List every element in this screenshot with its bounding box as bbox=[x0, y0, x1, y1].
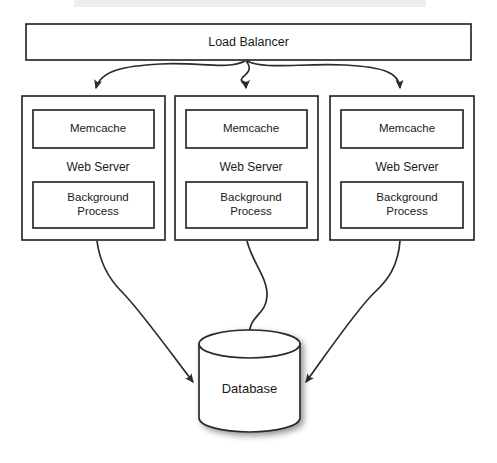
background-process-box bbox=[186, 182, 307, 228]
architecture-diagram: Load Balancer Memcache Web Server Backgr… bbox=[0, 0, 497, 463]
connector-server-3-to-database bbox=[306, 241, 400, 382]
connector-server-2-to-database bbox=[247, 241, 267, 337]
memcache-box bbox=[186, 110, 307, 148]
connector-lb-to-server-2 bbox=[241, 61, 249, 88]
connector-server-1-to-database bbox=[97, 241, 193, 382]
database-top-ellipse bbox=[199, 330, 300, 358]
server-box-3 bbox=[330, 96, 474, 240]
memcache-box bbox=[341, 110, 463, 148]
database-cylinder bbox=[199, 330, 300, 432]
diagram-vector-layer bbox=[0, 0, 497, 463]
server-box-1 bbox=[22, 96, 165, 240]
connector-lb-to-server-3 bbox=[247, 61, 400, 88]
server-box-2 bbox=[175, 96, 318, 240]
background-process-box bbox=[33, 182, 154, 228]
memcache-box bbox=[33, 110, 154, 148]
background-process-box bbox=[341, 182, 463, 228]
connector-lb-to-server-1 bbox=[96, 61, 245, 88]
load-balancer-box bbox=[26, 24, 471, 60]
